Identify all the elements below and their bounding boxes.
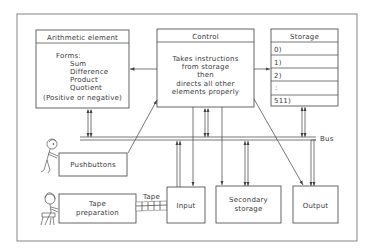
- secondary-storage-line: storage: [235, 205, 263, 213]
- arithmetic-line: Sum: [70, 60, 86, 68]
- secondary-storage-box: Secondary storage: [216, 186, 281, 223]
- tape-prep-line: Tape: [88, 200, 106, 208]
- storage-row: 0): [274, 46, 282, 54]
- tape-label: Tape: [142, 193, 160, 201]
- arithmetic-bus-link: [87, 109, 93, 137]
- storage-row: :: [275, 84, 278, 92]
- storage-bus-link: [301, 107, 307, 137]
- control-to-output-arrow: [254, 99, 303, 185]
- storage-row: 1): [274, 59, 282, 67]
- arithmetic-line: Product: [70, 76, 98, 84]
- output-bus-link: [310, 140, 317, 186]
- output-label: Output: [303, 202, 329, 210]
- arithmetic-line: (Positive or negative): [43, 94, 122, 102]
- arithmetic-element-box: Arithmetic element Forms: Sum Difference…: [36, 30, 129, 108]
- tape-strip: Tape: [136, 193, 167, 211]
- person-tape-figure: [41, 193, 58, 225]
- control-box: Control Takes instructions from storage …: [157, 29, 254, 107]
- input-box: Input: [167, 187, 205, 223]
- pushbuttons-box: Pushbuttons: [59, 153, 127, 176]
- bus-label: Bus: [320, 135, 334, 143]
- control-line: Takes instructions: [172, 55, 239, 63]
- secondary-bus-link: [244, 141, 250, 186]
- control-line: from storage: [182, 63, 230, 71]
- tape-preparation-box: Tape preparation: [59, 194, 136, 223]
- pushbuttons-to-control-arrow: [128, 100, 157, 153]
- output-box: Output: [293, 186, 338, 223]
- control-line: then: [197, 71, 214, 79]
- pushbuttons-label: Pushbuttons: [70, 161, 116, 169]
- bus: Bus: [80, 135, 334, 143]
- arithmetic-line: Quotient: [70, 84, 102, 92]
- control-line: directs all other: [176, 80, 234, 88]
- control-line: elements properly: [172, 88, 239, 96]
- arithmetic-line: Difference: [70, 68, 108, 76]
- storage-row: 2): [274, 72, 282, 80]
- arithmetic-line: Forms:: [56, 52, 81, 60]
- control-bus-link: [204, 108, 210, 137]
- storage-row: 511): [274, 97, 291, 105]
- input-bus-link: [176, 141, 182, 187]
- storage-box: Storage 0) 1) 2) : 511): [271, 29, 338, 106]
- arithmetic-title: Arithmetic element: [47, 34, 118, 42]
- tape-prep-line: preparation: [76, 209, 119, 217]
- person-pushbuttons-figure: [41, 139, 58, 173]
- input-label: Input: [176, 202, 195, 210]
- diagram-canvas: Arithmetic element Forms: Sum Difference…: [0, 0, 368, 249]
- control-title: Control: [192, 33, 219, 41]
- secondary-storage-line: Secondary: [229, 196, 268, 204]
- storage-title: Storage: [290, 33, 319, 41]
